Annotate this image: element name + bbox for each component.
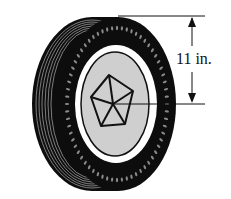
- knurl-mark: [116, 178, 118, 182]
- arrow-down-icon: [188, 93, 196, 103]
- knurl-mark: [116, 26, 118, 30]
- arrow-up-icon: [188, 17, 196, 27]
- dimension-label: 11 in.: [176, 50, 212, 67]
- tire-diagram: 11 in.: [0, 0, 231, 199]
- knurl-mark: [65, 103, 69, 105]
